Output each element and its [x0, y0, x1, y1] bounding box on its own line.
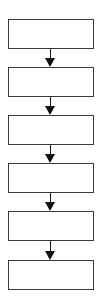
arrow-line [50, 241, 51, 251]
node-label [9, 164, 93, 192]
arrow-5-to-6 [50, 241, 52, 260]
arrow-1-to-2 [50, 49, 52, 67]
flowchart-node-5 [8, 211, 94, 241]
arrow-4-to-5 [50, 193, 52, 211]
arrow-down-icon [45, 251, 55, 260]
node-label [9, 116, 93, 144]
flowchart-node-2 [8, 67, 94, 97]
node-label [9, 261, 93, 289]
flowchart-node-6 [8, 260, 94, 290]
node-label [9, 20, 93, 48]
arrow-down-icon [45, 202, 55, 211]
flowchart-node-3 [8, 115, 94, 145]
arrow-line [50, 97, 51, 106]
arrow-line [50, 193, 51, 202]
arrow-down-icon [45, 58, 55, 67]
arrow-down-icon [45, 106, 55, 115]
arrow-2-to-3 [50, 97, 52, 115]
node-label [9, 68, 93, 96]
flowchart-node-1 [8, 19, 94, 49]
arrow-line [50, 49, 51, 58]
arrow-line [50, 145, 51, 154]
arrow-down-icon [45, 154, 55, 163]
arrow-3-to-4 [50, 145, 52, 163]
flowchart-node-4 [8, 163, 94, 193]
node-label [9, 212, 93, 240]
